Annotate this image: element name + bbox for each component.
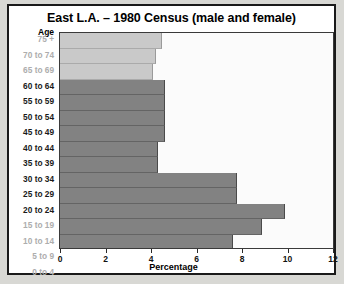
bar-55-to-59 [60,95,165,111]
bar-70-to-74 [60,49,156,65]
y-tick-label: 30 to 34 [9,172,57,188]
bar-row [60,204,333,220]
y-tick-label: 50 to 54 [9,110,57,126]
x-tick-mark [242,249,243,253]
y-tick-label: 65 to 69 [9,63,57,79]
bar-50-to-54 [60,111,165,127]
y-axis-labels: 75 +70 to 7465 to 6960 to 6455 to 5950 t… [9,32,57,249]
y-tick-label: 55 to 59 [9,94,57,110]
bar-30-to-34 [60,173,237,189]
bar-75-plus [60,33,162,49]
bar-65-to-69 [60,64,153,80]
y-tick-label: 45 to 49 [9,125,57,141]
y-tick-label: 35 to 39 [9,156,57,172]
bar-row [60,126,333,142]
x-tick-mark [106,249,107,253]
x-tick-mark [60,249,61,253]
bar-row [60,235,333,250]
x-tick-mark [151,249,152,253]
x-tick-mark [333,249,334,253]
bar-20-to-24 [60,204,285,220]
bar-10-to-14 [60,235,233,250]
bar-row [60,157,333,173]
x-tick-mark [288,249,289,253]
bar-row [60,80,333,96]
bar-row [60,111,333,127]
bar-row [60,49,333,65]
y-tick-label: 75 + [9,32,57,48]
bar-row [60,64,333,80]
y-tick-label: 25 to 29 [9,187,57,203]
bar-row [60,33,333,49]
bar-15-to-19 [60,219,262,235]
bar-45-to-49 [60,126,165,142]
bar-row [60,95,333,111]
bar-35-to-39 [60,157,158,173]
x-axis-title: Percentage [9,262,338,272]
x-tick-mark [197,249,198,253]
plot-area [59,32,334,249]
bar-row [60,173,333,189]
y-tick-label: 40 to 44 [9,141,57,157]
bar-row [60,219,333,235]
y-tick-label: 15 to 19 [9,218,57,234]
y-tick-label: 70 to 74 [9,48,57,64]
bar-row [60,188,333,204]
y-tick-label: 20 to 24 [9,203,57,219]
bar-row [60,142,333,158]
bar-40-to-44 [60,142,158,158]
bar-60-to-64 [60,80,165,96]
chart-frame: East L.A. – 1980 Census (male and female… [7,4,336,275]
y-tick-label: 10 to 14 [9,234,57,250]
bar-25-to-29 [60,188,237,204]
chart-title: East L.A. – 1980 Census (male and female… [9,11,334,25]
y-tick-label: 60 to 64 [9,79,57,95]
